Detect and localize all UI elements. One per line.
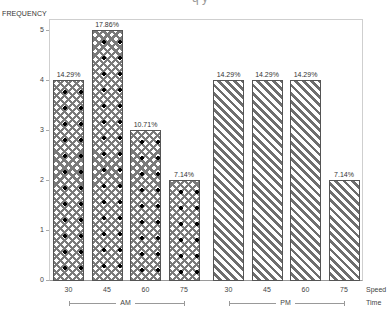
y-axis-label: FREQUENCY (2, 10, 47, 17)
bar-percent-label: 10.71% (126, 121, 166, 128)
bar-am-60 (130, 130, 161, 281)
bar-percent-label: 14.29% (209, 71, 249, 78)
y-tick-mark (46, 180, 49, 181)
y-tick-mark (46, 280, 49, 281)
y-tick-label: 4 (34, 76, 44, 83)
time-bracket-end (69, 301, 70, 306)
speed-tick-label: 45 (252, 286, 282, 293)
time-bracket-end (344, 301, 345, 306)
y-tick-label: 3 (34, 126, 44, 133)
bar-pm-45 (252, 80, 283, 281)
speed-tick-label: 75 (329, 286, 359, 293)
bar-percent-label: 7.14% (164, 171, 204, 178)
y-tick-mark (46, 130, 49, 131)
bar-percent-label: 14.29% (286, 71, 326, 78)
time-bracket-end (184, 301, 185, 306)
speed-tick-label: 45 (92, 286, 122, 293)
y-tick-label: 2 (34, 176, 44, 183)
bar-percent-label: 17.86% (87, 21, 127, 28)
y-tick-label: 0 (34, 276, 44, 283)
speed-axis-label: Speed (366, 286, 386, 293)
bar-pm-30 (213, 80, 244, 281)
time-axis-label: Time (366, 299, 381, 306)
bar-percent-label: 7.14% (324, 171, 364, 178)
bar-percent-label: 14.29% (49, 71, 89, 78)
y-tick-label: 5 (34, 26, 44, 33)
y-tick-mark (46, 80, 49, 81)
y-tick-mark (46, 30, 49, 31)
speed-tick-label: 30 (214, 286, 244, 293)
bar-percent-label: 14.29% (247, 71, 287, 78)
bar-am-30 (53, 80, 84, 281)
bar-am-75 (169, 180, 200, 281)
bar-am-45 (92, 30, 123, 281)
time-group-label: AM (116, 299, 135, 306)
chart-title-clipped: q y (100, 0, 300, 5)
speed-tick-label: 60 (291, 286, 321, 293)
y-tick-label: 1 (34, 226, 44, 233)
bar-pm-60 (290, 80, 321, 281)
speed-tick-label: 30 (54, 286, 84, 293)
speed-tick-label: 75 (169, 286, 199, 293)
bar-pm-75 (329, 180, 360, 281)
speed-tick-label: 60 (131, 286, 161, 293)
time-group-label: PM (276, 299, 295, 306)
y-tick-mark (46, 230, 49, 231)
time-bracket-end (229, 301, 230, 306)
